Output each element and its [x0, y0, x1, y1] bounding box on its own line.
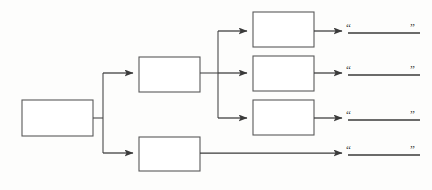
close-quote-3: ” [410, 109, 415, 120]
open-quote-2: “ [346, 64, 351, 75]
node-mid-1[interactable] [139, 57, 200, 92]
close-quote-4: ” [410, 144, 415, 155]
diagram-canvas: “ ” “ ” “ ” “ ” [0, 0, 432, 190]
open-quote-1: “ [346, 22, 351, 33]
node-mid-2[interactable] [139, 137, 200, 171]
answer-slot-2[interactable]: “ ” [346, 64, 422, 76]
node-leaf-2[interactable] [253, 56, 314, 91]
node-leaf-3[interactable] [253, 100, 314, 135]
close-quote-1: ” [410, 22, 415, 33]
answer-slot-4[interactable]: “ ” [346, 144, 422, 156]
answer-slot-3[interactable]: “ ” [346, 109, 422, 121]
close-quote-2: ” [410, 64, 415, 75]
open-quote-3: “ [346, 109, 351, 120]
node-root[interactable] [22, 100, 93, 136]
node-leaf-1[interactable] [253, 12, 314, 47]
open-quote-4: “ [346, 144, 351, 155]
answer-slot-1[interactable]: “ ” [346, 22, 422, 34]
